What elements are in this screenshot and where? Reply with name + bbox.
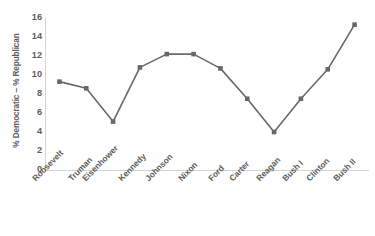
- x-tick-label: Clinton: [304, 156, 331, 183]
- x-tick-label: Ford: [206, 163, 226, 183]
- x-tick-label: Reagan: [254, 155, 282, 183]
- x-tick-label: Bush II: [331, 156, 358, 183]
- x-axis-tick-labels: RooseveltTrumanEisenhowerKennedyJohnsonN…: [0, 0, 375, 236]
- x-tick-label: Kennedy: [116, 151, 148, 183]
- x-tick-label: Johnson: [143, 152, 174, 183]
- x-tick-label: Carter: [227, 159, 251, 183]
- x-tick-label: Nixon: [176, 160, 199, 183]
- x-tick-label: Bush I: [280, 158, 305, 183]
- x-tick-label: Roosevelt: [30, 148, 65, 183]
- line-chart: % Democratic – % Republican 024681012141…: [0, 0, 375, 236]
